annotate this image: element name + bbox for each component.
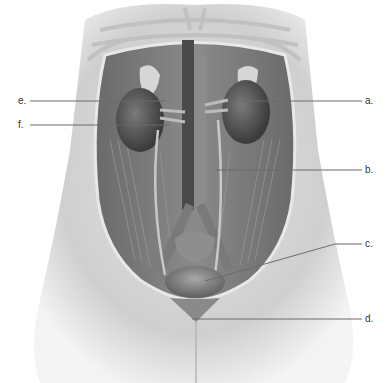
label-e: e. — [18, 96, 26, 106]
inferior-vena-cava — [182, 40, 194, 210]
label-b: b. — [365, 165, 373, 175]
anatomy-illustration — [0, 0, 388, 383]
urinary-bladder — [165, 266, 225, 298]
kidney-right — [222, 80, 270, 144]
label-d: d. — [365, 314, 373, 324]
label-a: a. — [365, 96, 373, 106]
aorta — [196, 55, 206, 215]
label-c: c. — [365, 239, 373, 249]
label-f: f. — [18, 120, 24, 130]
